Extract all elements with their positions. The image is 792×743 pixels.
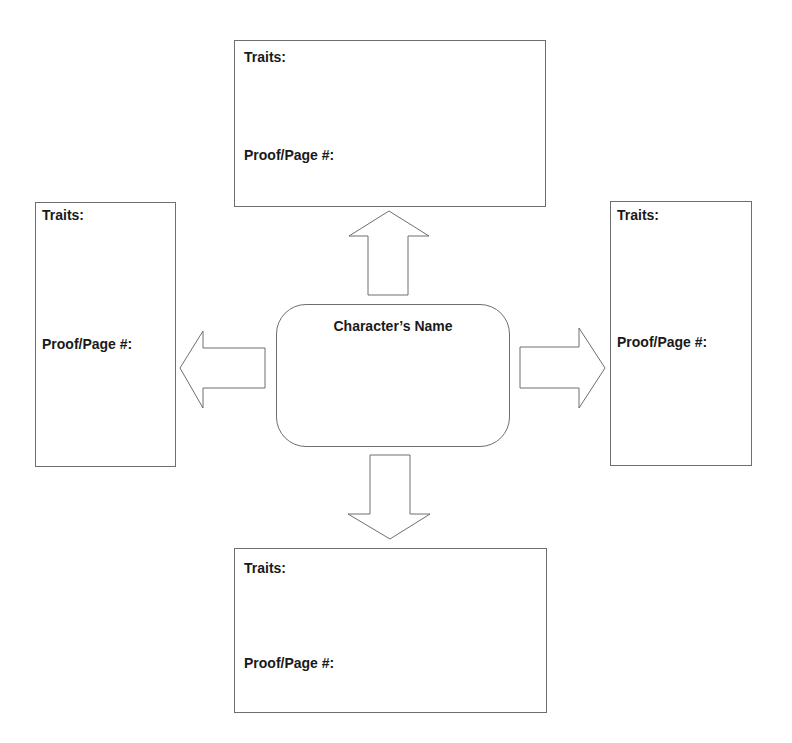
top-trait-box[interactable]: Traits: Proof/Page #:	[234, 40, 546, 207]
character-name-title: Character’s Name	[277, 318, 509, 334]
down-arrow-icon	[348, 455, 430, 539]
traits-label: Traits:	[617, 207, 659, 223]
proof-page-label: Proof/Page #:	[244, 147, 334, 163]
left-arrow-icon	[180, 331, 265, 408]
proof-page-label: Proof/Page #:	[42, 336, 132, 352]
traits-label: Traits:	[244, 49, 286, 65]
left-trait-box[interactable]: Traits: Proof/Page #:	[35, 202, 176, 467]
right-trait-box[interactable]: Traits: Proof/Page #:	[610, 201, 752, 466]
character-name-box[interactable]: Character’s Name	[276, 304, 510, 447]
traits-label: Traits:	[244, 560, 286, 576]
bottom-trait-box[interactable]: Traits: Proof/Page #:	[234, 548, 547, 713]
right-arrow-icon	[520, 328, 605, 408]
traits-label: Traits:	[42, 207, 84, 223]
proof-page-label: Proof/Page #:	[244, 655, 334, 671]
up-arrow-icon	[349, 211, 429, 295]
proof-page-label: Proof/Page #:	[617, 334, 707, 350]
